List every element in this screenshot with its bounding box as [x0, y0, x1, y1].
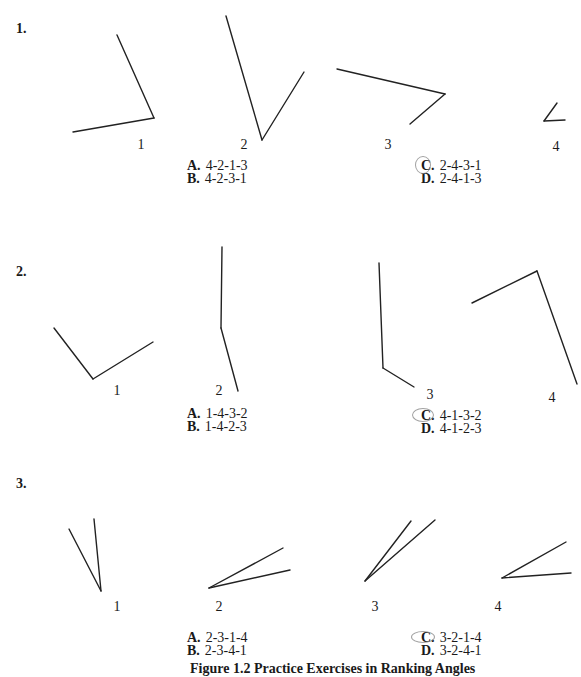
q1-choices-right: C.2-4-3-1 D.2-4-1-3 [421, 159, 482, 185]
q2-angle-label-2: 2 [216, 383, 223, 399]
q3-choices-right: C.3-2-1-4 D.3-2-4-1 [421, 631, 482, 657]
q2-angle-2 [221, 247, 238, 391]
q3-choice-c[interactable]: C.3-2-1-4 [421, 631, 482, 644]
q1-choice-b[interactable]: B.4-2-3-1 [187, 172, 248, 185]
q1-choice-c[interactable]: C.2-4-3-1 [421, 159, 482, 172]
q1-angle-2 [226, 16, 304, 140]
q2-angle-label-3: 3 [427, 387, 434, 403]
pencil-circle-mark [412, 408, 434, 422]
q2-angle-1 [54, 328, 153, 379]
q1-angle-label-4: 4 [553, 139, 560, 155]
q1-angle-4 [544, 103, 565, 121]
question-2-number: 2. [16, 264, 27, 280]
q1-angle-3 [337, 69, 445, 124]
pencil-circle-mark [415, 156, 431, 174]
q3-choice-d[interactable]: D.3-2-4-1 [421, 644, 482, 657]
q1-angle-label-1: 1 [138, 137, 145, 153]
q1-choices-left: A.4-2-1-3 B.4-2-3-1 [187, 159, 248, 185]
q2-angle-label-1: 1 [114, 383, 121, 399]
pencil-circle-mark [411, 631, 435, 643]
q3-angle-3 [365, 520, 435, 581]
q2-choice-c[interactable]: C.4-1-3-2 [421, 409, 482, 422]
q3-choice-b[interactable]: B.2-3-4-1 [187, 644, 248, 657]
q3-choices-left: A.2-3-1-4 B.2-3-4-1 [187, 631, 248, 657]
q2-choice-d[interactable]: D.4-1-2-3 [421, 422, 482, 435]
question-3-number: 3. [16, 476, 27, 492]
q1-choice-d[interactable]: D.2-4-1-3 [421, 172, 482, 185]
q2-choice-b[interactable]: B.1-4-2-3 [187, 420, 248, 433]
q3-angle-label-3: 3 [372, 599, 379, 615]
q3-angle-2 [209, 548, 290, 588]
q1-angle-label-2: 2 [241, 137, 248, 153]
q3-angle-label-1: 1 [114, 599, 121, 615]
q2-choices-right: C.4-1-3-2 D.4-1-2-3 [421, 409, 482, 435]
q3-angle-label-2: 2 [216, 599, 223, 615]
q2-angle-4 [472, 271, 577, 384]
q3-angle-4 [502, 542, 571, 578]
q2-choices-left: A.1-4-3-2 B.1-4-2-3 [187, 407, 248, 433]
figure-caption: Figure 1.2 Practice Exercises in Ranking… [190, 661, 475, 677]
q1-angle-1 [73, 35, 154, 132]
question-1-number: 1. [16, 21, 27, 37]
q1-angle-label-3: 3 [385, 137, 392, 153]
q3-angle-1 [69, 519, 101, 591]
q2-angle-label-4: 4 [549, 390, 556, 406]
q2-angle-3 [379, 263, 414, 387]
q3-angle-label-4: 4 [495, 599, 502, 615]
